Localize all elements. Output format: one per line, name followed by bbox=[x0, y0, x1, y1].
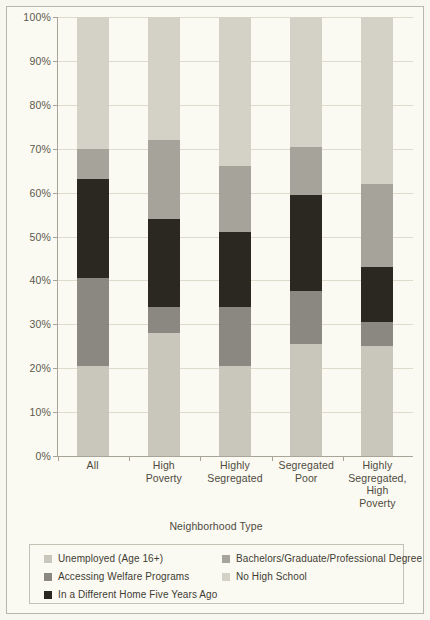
x-axis-category-label-line: Poverty bbox=[128, 472, 199, 485]
x-axis-category-label: All bbox=[57, 459, 128, 472]
chart-legend: Unemployed (Age 16+)Accessing Welfare Pr… bbox=[29, 544, 404, 604]
bar-segment[interactable] bbox=[219, 17, 251, 166]
legend-swatch-icon bbox=[222, 573, 230, 581]
bar-segment[interactable] bbox=[77, 366, 109, 456]
bar-segment[interactable] bbox=[361, 346, 393, 456]
x-axis-labels: AllHighPovertyHighlySegregatedSegregated… bbox=[57, 459, 413, 521]
x-axis-category-label-line: Poor bbox=[271, 472, 342, 485]
bar-segment[interactable] bbox=[219, 232, 251, 307]
x-axis-category-label-line: Segregated, bbox=[342, 472, 413, 485]
y-tick-label: 60% bbox=[29, 187, 51, 199]
x-axis-category-label-line: High bbox=[128, 459, 199, 472]
legend-swatch-icon bbox=[44, 591, 52, 599]
bar-segment[interactable] bbox=[361, 184, 393, 267]
bar-segment[interactable] bbox=[290, 147, 322, 195]
bar-segment[interactable] bbox=[148, 307, 180, 333]
gridline bbox=[58, 456, 413, 457]
y-tick-label: 0% bbox=[35, 450, 51, 462]
y-tick-label: 30% bbox=[29, 318, 51, 330]
y-tick-label: 70% bbox=[29, 143, 51, 155]
bar-column[interactable] bbox=[148, 17, 180, 456]
legend-entry[interactable]: Bachelors/Graduate/Professional Degree bbox=[222, 553, 422, 564]
x-axis-category-label: HighlySegregated,HighPoverty bbox=[342, 459, 413, 509]
bar-segment[interactable] bbox=[219, 307, 251, 366]
x-axis-category-label: SegregatedPoor bbox=[271, 459, 342, 484]
bar-segment[interactable] bbox=[219, 366, 251, 456]
bar-column[interactable] bbox=[219, 17, 251, 456]
y-tick-label: 10% bbox=[29, 406, 51, 418]
x-axis-category-label-line: Poverty bbox=[342, 497, 413, 510]
legend-label: Accessing Welfare Programs bbox=[58, 571, 189, 582]
bar-segment[interactable] bbox=[361, 267, 393, 322]
x-axis-category-label-line: Highly bbox=[199, 459, 270, 472]
plot-area: 0%10%20%30%40%50%60%70%80%90%100% bbox=[7, 7, 425, 497]
bar-segment[interactable] bbox=[361, 17, 393, 184]
bar-segment[interactable] bbox=[148, 140, 180, 219]
y-tick-label: 50% bbox=[29, 231, 51, 243]
x-axis-title: Neighborhood Type bbox=[7, 520, 425, 532]
bar-segment[interactable] bbox=[290, 291, 322, 344]
y-tick-label: 40% bbox=[29, 274, 51, 286]
legend-label: In a Different Home Five Years Ago bbox=[58, 589, 217, 600]
bar-segment[interactable] bbox=[77, 149, 109, 180]
bar-segment[interactable] bbox=[290, 195, 322, 292]
x-axis-category-label-line: High bbox=[342, 484, 413, 497]
bar-column[interactable] bbox=[290, 17, 322, 456]
y-tick-label: 90% bbox=[29, 55, 51, 67]
bar-segment[interactable] bbox=[77, 179, 109, 278]
bar-segment[interactable] bbox=[219, 166, 251, 232]
legend-label: No High School bbox=[236, 571, 307, 582]
legend-label: Unemployed (Age 16+) bbox=[58, 553, 163, 564]
legend-swatch-icon bbox=[222, 555, 230, 563]
x-axis-category-label: HighlySegregated bbox=[199, 459, 270, 484]
legend-entry[interactable]: In a Different Home Five Years Ago bbox=[44, 589, 217, 600]
bar-segment[interactable] bbox=[148, 17, 180, 140]
bar-segment[interactable] bbox=[148, 333, 180, 456]
bar-segment[interactable] bbox=[361, 322, 393, 346]
bar-segment[interactable] bbox=[148, 219, 180, 307]
legend-entry[interactable]: Accessing Welfare Programs bbox=[44, 571, 189, 582]
bar-segment[interactable] bbox=[77, 17, 109, 149]
legend-swatch-icon bbox=[44, 555, 52, 563]
bars-layer bbox=[57, 17, 413, 456]
x-axis-category-label-line: Segregated bbox=[199, 472, 270, 485]
x-axis-category-label-line: Highly bbox=[342, 459, 413, 472]
y-tick-label: 20% bbox=[29, 362, 51, 374]
legend-swatch-icon bbox=[44, 573, 52, 581]
y-tick-label: 100% bbox=[23, 11, 51, 23]
bar-segment[interactable] bbox=[77, 278, 109, 366]
legend-entry[interactable]: Unemployed (Age 16+) bbox=[44, 553, 163, 564]
chart-frame: 0%10%20%30%40%50%60%70%80%90%100% AllHig… bbox=[6, 6, 424, 614]
x-axis-category-label-line: All bbox=[57, 459, 128, 472]
bar-column[interactable] bbox=[361, 17, 393, 456]
y-tick-label: 80% bbox=[29, 99, 51, 111]
y-axis: 0%10%20%30%40%50%60%70%80%90%100% bbox=[7, 7, 57, 497]
legend-entry[interactable]: No High School bbox=[222, 571, 307, 582]
bar-segment[interactable] bbox=[290, 344, 322, 456]
x-axis-category-label-line: Segregated bbox=[271, 459, 342, 472]
bar-segment[interactable] bbox=[290, 17, 322, 147]
bar-column[interactable] bbox=[77, 17, 109, 456]
legend-label: Bachelors/Graduate/Professional Degree bbox=[236, 553, 422, 564]
x-axis-category-label: HighPoverty bbox=[128, 459, 199, 484]
